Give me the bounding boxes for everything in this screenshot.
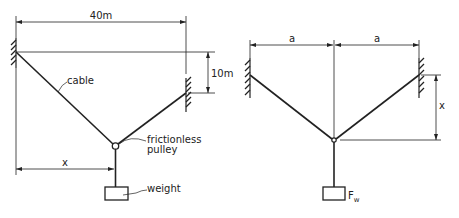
weight-box-icon bbox=[323, 187, 345, 200]
pulley-label-line2: pulley bbox=[147, 144, 177, 155]
cable-left-segment bbox=[250, 75, 332, 139]
diagram-canvas: 40m 10m cable frictionless pulley x weig… bbox=[0, 0, 459, 218]
cable-left-segment bbox=[16, 52, 113, 144]
sag-label: x bbox=[439, 100, 445, 111]
cable-leader-line bbox=[58, 82, 67, 92]
weight-label-sub: w bbox=[354, 196, 360, 204]
left-wall-support-icon bbox=[245, 58, 250, 98]
left-wall-support-icon bbox=[11, 38, 16, 68]
height-diff-label: 10m bbox=[211, 68, 233, 79]
span-label: 40m bbox=[90, 10, 112, 21]
cable-label: cable bbox=[67, 75, 94, 86]
weight-label: weight bbox=[147, 183, 181, 194]
weight-box-icon bbox=[105, 187, 128, 200]
left-figure: 40m 10m cable frictionless pulley x weig… bbox=[11, 10, 233, 200]
x-label: x bbox=[62, 157, 68, 168]
half-span-right-label: a bbox=[374, 33, 380, 44]
pulley-icon bbox=[112, 143, 118, 149]
right-wall-support-icon bbox=[419, 58, 424, 98]
right-figure: a a x Fw bbox=[245, 33, 445, 204]
right-wall-support-icon bbox=[186, 77, 191, 112]
half-span-left-label: a bbox=[289, 33, 295, 44]
weight-label: Fw bbox=[348, 190, 360, 204]
pulley-icon bbox=[332, 138, 336, 142]
cable-right-segment bbox=[336, 75, 419, 139]
